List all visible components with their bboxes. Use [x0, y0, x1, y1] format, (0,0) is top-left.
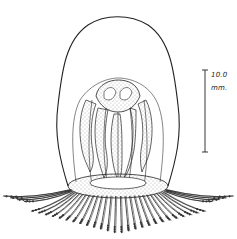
scale-unit-label: mm.: [211, 84, 227, 92]
jellyfish-illustration: [0, 0, 237, 239]
scale-value-label: 10.0: [211, 71, 227, 79]
scale-bar: [202, 70, 208, 152]
manubrium: [96, 80, 140, 112]
